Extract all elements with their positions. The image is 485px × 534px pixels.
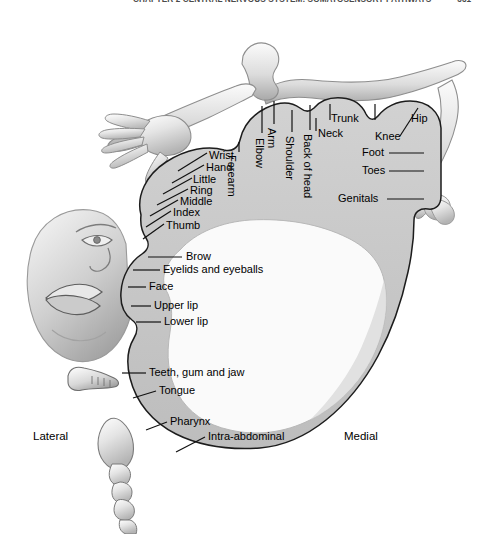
figure-canvas: CHAPTER 2 CENTRAL NERVOUS SYSTEM: SOMATO… (0, 0, 485, 534)
label-pharynx: Pharynx (170, 416, 210, 427)
label-trunk: Trunk (331, 113, 359, 124)
label-medial: Medial (344, 431, 378, 442)
label-index: Index (173, 207, 200, 218)
label-shoulder: Shoulder (284, 136, 295, 180)
label-tongue: Tongue (159, 385, 195, 396)
label-lateral: Lateral (33, 431, 68, 442)
label-brow: Brow (186, 251, 211, 262)
jaw-teeth-inset (68, 367, 119, 390)
oversized-face (27, 210, 130, 362)
label-hip: Hip (411, 113, 428, 124)
label-upper-lip: Upper lip (154, 300, 198, 311)
label-forearm: Forearm (226, 155, 237, 197)
label-teeth-gum-and-jaw: Teeth, gum and jaw (149, 367, 244, 378)
label-foot: Foot (362, 147, 384, 158)
label-intra-abdominal: Intra-abdominal (208, 431, 284, 442)
label-face: Face (149, 281, 173, 292)
label-genitals: Genitals (338, 193, 378, 204)
label-toes: Toes (362, 165, 385, 176)
label-lower-lip: Lower lip (164, 316, 208, 327)
label-elbow: Elbow (254, 138, 265, 168)
label-arm: Arm (266, 128, 277, 148)
label-eyelids-and-eyeballs: Eyelids and eyeballs (163, 264, 263, 275)
label-neck: Neck (318, 128, 343, 139)
label-knee: Knee (375, 131, 401, 142)
tongue-pharynx-inset (98, 418, 137, 534)
label-back-of-head: Back of head (302, 134, 313, 198)
label-thumb: Thumb (166, 220, 200, 231)
